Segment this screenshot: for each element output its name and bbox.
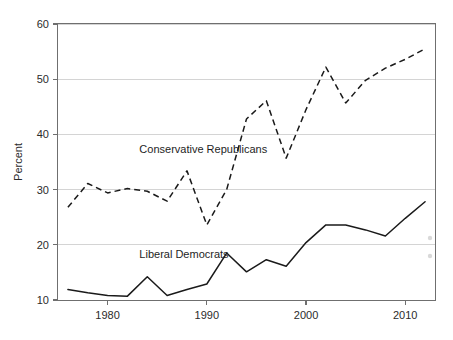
- x-tick-label: 2010: [393, 309, 417, 321]
- y-tick-label: 30: [37, 184, 49, 196]
- line-chart: 102030405060 1980199020002010 Percent Co…: [0, 0, 453, 340]
- y-tick-label: 20: [37, 239, 49, 251]
- y-tick-label: 60: [37, 18, 49, 30]
- x-tick-label: 1990: [195, 309, 219, 321]
- scan-speck: [428, 236, 432, 240]
- y-tick-label: 10: [37, 294, 49, 306]
- series-annotation-conservative-republicans: Conservative Republicans: [139, 143, 267, 155]
- x-tick-label: 2000: [294, 309, 318, 321]
- chart-figure: 102030405060 1980199020002010 Percent Co…: [0, 0, 453, 340]
- scan-speck: [428, 254, 432, 258]
- y-tick-label: 40: [37, 128, 49, 140]
- series-annotation-liberal-democrats: Liberal Democrats: [139, 248, 229, 260]
- x-tick-label: 1980: [95, 309, 119, 321]
- y-tick-label: 50: [37, 73, 49, 85]
- y-axis-title: Percent: [12, 143, 24, 181]
